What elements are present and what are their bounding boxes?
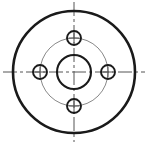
technical-drawing-canvas: Flange Plate Technical Drawing	[0, 0, 147, 144]
